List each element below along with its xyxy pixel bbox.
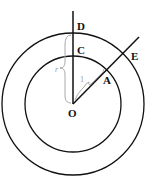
label-c: C	[77, 44, 85, 56]
label-e: E	[131, 50, 138, 62]
outer-radius-brace	[60, 35, 71, 103]
label-one: 1	[80, 75, 84, 84]
inner-radius-brace	[75, 69, 104, 100]
label-a: A	[103, 74, 111, 86]
label-r: r	[55, 65, 59, 74]
label-d: D	[77, 20, 85, 32]
label-o: O	[68, 107, 77, 119]
concentric-circles-diagram: D C E A O r 1	[0, 0, 153, 192]
